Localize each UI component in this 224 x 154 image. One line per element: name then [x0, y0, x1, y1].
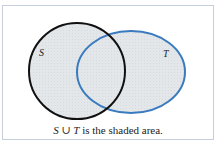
caption-set-t: T: [73, 124, 79, 136]
caption-union-symbol: ∪: [61, 124, 70, 136]
caption-set-s: S: [53, 124, 59, 136]
figure-caption: S ∪ T is the shaded area.: [2, 124, 214, 137]
venn-diagram-figure: S T S ∪ T is the shaded area.: [0, 0, 224, 154]
set-s-label: S: [39, 47, 44, 58]
caption-text: is the shaded area.: [82, 124, 163, 136]
